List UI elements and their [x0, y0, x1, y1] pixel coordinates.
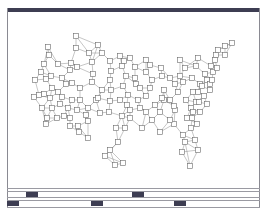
node	[148, 63, 153, 68]
node	[216, 48, 221, 53]
node	[100, 51, 105, 56]
node	[69, 61, 74, 66]
node	[210, 78, 215, 83]
node	[62, 114, 67, 119]
node	[128, 108, 133, 113]
node	[49, 74, 54, 79]
node	[188, 164, 193, 169]
node	[223, 53, 228, 58]
divider-line	[7, 188, 260, 189]
node	[100, 88, 105, 93]
divider-line	[7, 200, 260, 201]
node	[44, 122, 49, 127]
node	[114, 126, 119, 131]
node	[55, 116, 60, 121]
node	[108, 78, 113, 83]
node	[140, 126, 145, 131]
node	[86, 136, 91, 141]
node	[183, 140, 188, 145]
node	[189, 126, 194, 131]
timeline-mark	[7, 201, 19, 206]
node	[87, 51, 92, 56]
timeline-mark	[26, 192, 38, 197]
node	[150, 78, 155, 83]
node	[198, 110, 203, 115]
node	[58, 102, 63, 107]
node	[173, 82, 178, 87]
node	[200, 84, 205, 89]
node	[181, 80, 186, 85]
edge	[185, 142, 190, 166]
node	[191, 110, 196, 115]
node	[190, 116, 195, 121]
node	[183, 66, 188, 71]
node	[107, 110, 112, 115]
node	[185, 116, 190, 121]
timeline-mark	[132, 192, 144, 197]
node	[121, 161, 126, 166]
node	[109, 88, 114, 93]
node	[118, 98, 123, 103]
node	[120, 114, 125, 119]
node	[223, 44, 228, 49]
node	[45, 116, 50, 121]
node	[148, 86, 153, 91]
node	[176, 90, 181, 95]
node	[98, 111, 103, 116]
node	[75, 108, 80, 113]
node	[90, 80, 95, 85]
node	[208, 88, 213, 93]
node	[77, 130, 82, 135]
node	[144, 94, 149, 99]
node	[195, 122, 200, 127]
node	[90, 60, 95, 65]
node	[76, 124, 81, 129]
node	[158, 130, 163, 135]
node	[91, 72, 96, 77]
node	[42, 62, 47, 67]
node	[68, 116, 73, 121]
node	[181, 133, 186, 138]
node	[109, 69, 114, 74]
node	[78, 98, 83, 103]
node	[133, 76, 138, 81]
timeline-mark	[91, 201, 103, 206]
node	[214, 53, 219, 58]
node	[196, 90, 201, 95]
node	[190, 76, 195, 81]
node	[33, 78, 38, 83]
node	[128, 116, 133, 121]
node	[60, 76, 65, 81]
node	[197, 100, 202, 105]
node	[191, 90, 196, 95]
node	[144, 70, 149, 75]
node	[56, 90, 61, 95]
node	[47, 53, 52, 58]
node	[40, 106, 45, 111]
node	[84, 113, 89, 118]
node	[121, 84, 126, 89]
network-map	[0, 0, 266, 211]
node	[215, 66, 220, 71]
node	[194, 64, 199, 69]
edges	[34, 36, 232, 166]
node	[37, 93, 42, 98]
node	[32, 95, 37, 100]
node	[168, 98, 173, 103]
node	[122, 59, 127, 64]
node	[96, 43, 101, 48]
node	[160, 96, 165, 101]
node	[75, 65, 80, 70]
node	[108, 99, 113, 104]
nodes	[32, 34, 235, 169]
node	[46, 45, 51, 50]
node	[96, 96, 101, 101]
node	[120, 64, 125, 69]
node	[133, 65, 138, 70]
node	[44, 77, 49, 82]
node	[144, 110, 149, 115]
node	[56, 62, 61, 67]
node	[50, 86, 55, 91]
node	[196, 148, 201, 153]
node	[168, 76, 173, 81]
